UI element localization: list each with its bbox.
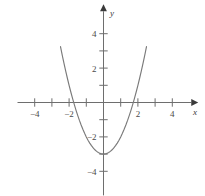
y-tick-label: 4 xyxy=(92,29,97,39)
y-tick-label: 2 xyxy=(92,64,97,74)
x-axis-right-arrow-icon xyxy=(191,99,198,106)
y-tick-label: −4 xyxy=(87,167,97,177)
parabola-figure: −4−224 42−2−4 x y xyxy=(0,0,205,196)
x-tick-label: 2 xyxy=(136,109,141,119)
x-tick-label: −4 xyxy=(30,109,40,119)
y-axis-label: y xyxy=(109,8,114,18)
plot-canvas: −4−224 42−2−4 x y xyxy=(0,0,205,196)
axes-group xyxy=(18,4,199,195)
x-axis-label: x xyxy=(192,107,197,117)
x-axis-tick-labels: −4−224 xyxy=(30,109,175,119)
x-tick-label: −2 xyxy=(64,109,74,119)
y-axis-up-arrow-icon xyxy=(100,4,107,11)
x-tick-label: 4 xyxy=(170,109,175,119)
